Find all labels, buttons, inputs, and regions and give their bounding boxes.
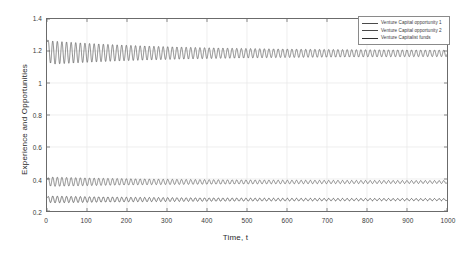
x-tick-label: 400 <box>201 217 212 224</box>
y-tick-label: 0.4 <box>12 176 42 183</box>
series-line <box>47 177 447 186</box>
legend-line-swatch <box>361 34 379 41</box>
legend-item[interactable]: Venture Capital opportunity 2 <box>361 27 447 34</box>
y-tick-label: 1.4 <box>12 15 42 22</box>
legend-line-swatch <box>361 27 379 34</box>
x-tick-label: 500 <box>241 217 252 224</box>
y-tick-label: 1 <box>12 79 42 86</box>
legend-item-label: Venture Capital opportunity 1 <box>379 19 442 26</box>
legend-line-swatch <box>361 19 379 26</box>
legend-item-label: Venture Capital opportunity 2 <box>379 27 442 34</box>
y-tick-label: 0.2 <box>12 209 42 216</box>
legend-item[interactable]: Venture Capital opportunity 1 <box>361 19 447 26</box>
series-lines <box>47 19 447 211</box>
y-tick-label: 1.2 <box>12 47 42 54</box>
x-tick-label: 300 <box>161 217 172 224</box>
x-tick-label: 100 <box>81 217 92 224</box>
x-tick-label: 700 <box>322 217 333 224</box>
x-tick-label: 200 <box>121 217 132 224</box>
x-tick-label: 800 <box>362 217 373 224</box>
x-tick-label: 1000 <box>441 217 456 224</box>
x-tick-label: 600 <box>282 217 293 224</box>
plot-area <box>46 18 448 212</box>
series-line <box>47 196 447 203</box>
y-tick-label: 0.6 <box>12 144 42 151</box>
x-tick-label: 0 <box>44 217 48 224</box>
legend-item[interactable]: Venture Capitalist funds <box>361 34 447 41</box>
figure-canvas: Experience and Opportunities 0.20.40.60.… <box>0 0 471 253</box>
legend: Venture Capital opportunity 1 Venture Ca… <box>358 16 450 45</box>
x-tick-label: 900 <box>402 217 413 224</box>
y-tick-label: 0.8 <box>12 112 42 119</box>
legend-item-label: Venture Capitalist funds <box>379 34 431 41</box>
x-axis-title: Time, t <box>0 233 471 242</box>
